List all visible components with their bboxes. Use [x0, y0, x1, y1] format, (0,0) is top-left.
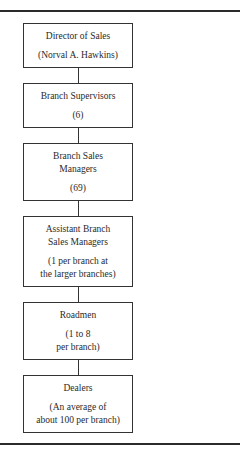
box-title: Assistant Branch Sales Managers	[46, 223, 111, 249]
box-title: Dealers	[63, 382, 92, 395]
connector-line	[78, 360, 79, 375]
box-detail: (6)	[72, 109, 83, 122]
box-title: Branch Sales Managers	[53, 150, 103, 176]
box-dealers: Dealers (An average of about 100 per bra…	[23, 375, 133, 433]
connector-line	[78, 201, 79, 216]
connector-line	[78, 128, 79, 143]
box-detail: (1 per branch at the larger branches)	[40, 255, 115, 281]
connector-line	[78, 287, 79, 302]
box-detail: (An average of about 100 per branch)	[36, 401, 120, 427]
box-detail: (69)	[70, 182, 86, 195]
box-title: Roadmen	[60, 309, 96, 322]
box-detail: (Norval A. Hawkins)	[38, 49, 118, 62]
box-title: Branch Supervisors	[41, 90, 116, 103]
connector-line	[78, 68, 79, 83]
box-branch-sales-managers: Branch Sales Managers (69)	[23, 143, 133, 201]
box-branch-supervisors: Branch Supervisors (6)	[23, 83, 133, 128]
bottom-rule	[0, 443, 240, 445]
box-assistant-branch-sales-managers: Assistant Branch Sales Managers (1 per b…	[23, 216, 133, 287]
box-detail: (1 to 8 per branch)	[56, 328, 100, 354]
top-rule	[0, 10, 240, 12]
box-roadmen: Roadmen (1 to 8 per branch)	[23, 302, 133, 360]
box-title: Director of Sales	[46, 30, 110, 43]
box-director-of-sales: Director of Sales (Norval A. Hawkins)	[23, 23, 133, 68]
